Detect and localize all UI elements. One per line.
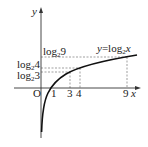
- x-tick-3: 3: [67, 87, 73, 99]
- y-tick-log2-9: log29: [43, 45, 67, 59]
- x-tick-1: 1: [51, 87, 57, 99]
- function-label: y=log2x: [96, 42, 131, 56]
- x-axis-label: x: [130, 87, 136, 99]
- x-tick-9: 9: [123, 87, 129, 99]
- x-tick-4: 4: [76, 87, 82, 99]
- y-axis-label: y: [31, 5, 37, 17]
- origin-label: O: [33, 87, 41, 99]
- axes: [14, 10, 138, 138]
- y-axis-arrow-icon: [39, 7, 43, 13]
- x-axis-arrow-icon: [135, 86, 141, 90]
- log-graph: y x O 1 3 4 9 log29 log24 log23 y=log2x: [0, 0, 148, 147]
- y-tick-log2-3: log23: [17, 69, 41, 83]
